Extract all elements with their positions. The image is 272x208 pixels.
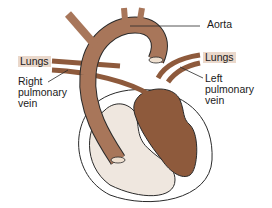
aortic-branch-1 <box>68 14 95 45</box>
aorta-opening <box>149 57 163 63</box>
left-pulmonary-vein-label: Left pulmonary vein <box>205 73 254 106</box>
left-pv-leader <box>180 67 203 78</box>
lungs-label-right: Lungs <box>203 52 236 63</box>
aortic-branch-2 <box>124 8 125 20</box>
pulmonary-trunk-opening <box>111 157 125 163</box>
aortic-branch-3 <box>140 8 142 20</box>
lungs-label-left: Lungs <box>18 56 51 67</box>
right-pulmonary-vein-label: Right pulmonary vein <box>18 76 67 109</box>
aorta-label: Aorta <box>207 19 232 30</box>
